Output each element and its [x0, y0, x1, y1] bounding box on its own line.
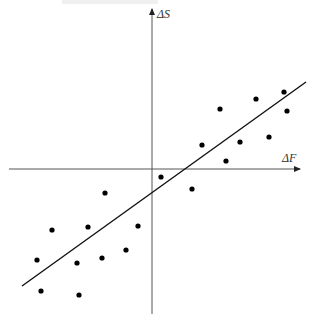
- data-point: [76, 292, 81, 297]
- data-point: [74, 260, 79, 265]
- data-point: [281, 89, 286, 94]
- scatter-diagram: ΔS ΔF: [0, 0, 313, 321]
- data-point: [102, 190, 107, 195]
- data-point: [284, 108, 289, 113]
- data-point: [123, 247, 128, 252]
- data-point: [217, 106, 222, 111]
- y-axis-label: ΔS: [157, 8, 170, 20]
- data-point: [199, 142, 204, 147]
- data-point: [253, 96, 258, 101]
- data-point: [237, 139, 242, 144]
- data-point: [135, 223, 140, 228]
- data-point: [34, 257, 39, 262]
- data-point: [223, 158, 228, 163]
- plot-area: [0, 0, 313, 321]
- cropped-caption-remnant: [62, 0, 158, 4]
- x-axis-label: ΔF: [282, 152, 296, 164]
- regression-line: [22, 82, 306, 286]
- data-point: [38, 288, 43, 293]
- data-point: [99, 255, 104, 260]
- data-point: [189, 186, 194, 191]
- data-point: [85, 224, 90, 229]
- data-point: [49, 227, 54, 232]
- data-point: [266, 134, 271, 139]
- data-point: [158, 174, 163, 179]
